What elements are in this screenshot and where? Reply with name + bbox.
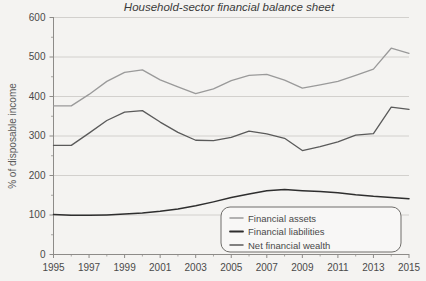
x-tick-label: 1997 — [78, 262, 101, 273]
y-tick-label: 500 — [29, 51, 46, 62]
y-tick-label: 0 — [40, 249, 46, 260]
x-tick-label: 2007 — [256, 262, 279, 273]
legend-label-financial-liabilities[interactable]: Financial liabilities — [248, 226, 325, 237]
y-tick-label: 200 — [29, 170, 46, 181]
x-tick-label: 1999 — [113, 262, 136, 273]
x-tick-label: 2013 — [362, 262, 385, 273]
y-tick-label: 300 — [29, 130, 46, 141]
x-tick-label: 2001 — [149, 262, 172, 273]
chart-title: Household-sector financial balance sheet — [124, 1, 335, 13]
y-tick-label: 600 — [29, 12, 46, 23]
line-chart: Household-sector financial balance sheet… — [0, 0, 426, 281]
legend-label-net-financial-wealth[interactable]: Net financial wealth — [248, 240, 330, 251]
y-tick-label: 400 — [29, 91, 46, 102]
chart-container: Household-sector financial balance sheet… — [0, 0, 426, 281]
y-tick-label: 100 — [29, 209, 46, 220]
chart-legend[interactable]: Financial assetsFinancial liabilitiesNet… — [221, 207, 401, 252]
x-tick-label: 2005 — [220, 262, 243, 273]
x-tick-label: 2015 — [398, 262, 421, 273]
y-axis-label: % of disposable income — [7, 83, 18, 189]
x-tick-label: 1995 — [42, 262, 65, 273]
legend-label-financial-assets[interactable]: Financial assets — [248, 213, 316, 224]
x-tick-label: 2009 — [291, 262, 314, 273]
x-tick-label: 2003 — [185, 262, 208, 273]
x-tick-label: 2011 — [327, 262, 349, 273]
